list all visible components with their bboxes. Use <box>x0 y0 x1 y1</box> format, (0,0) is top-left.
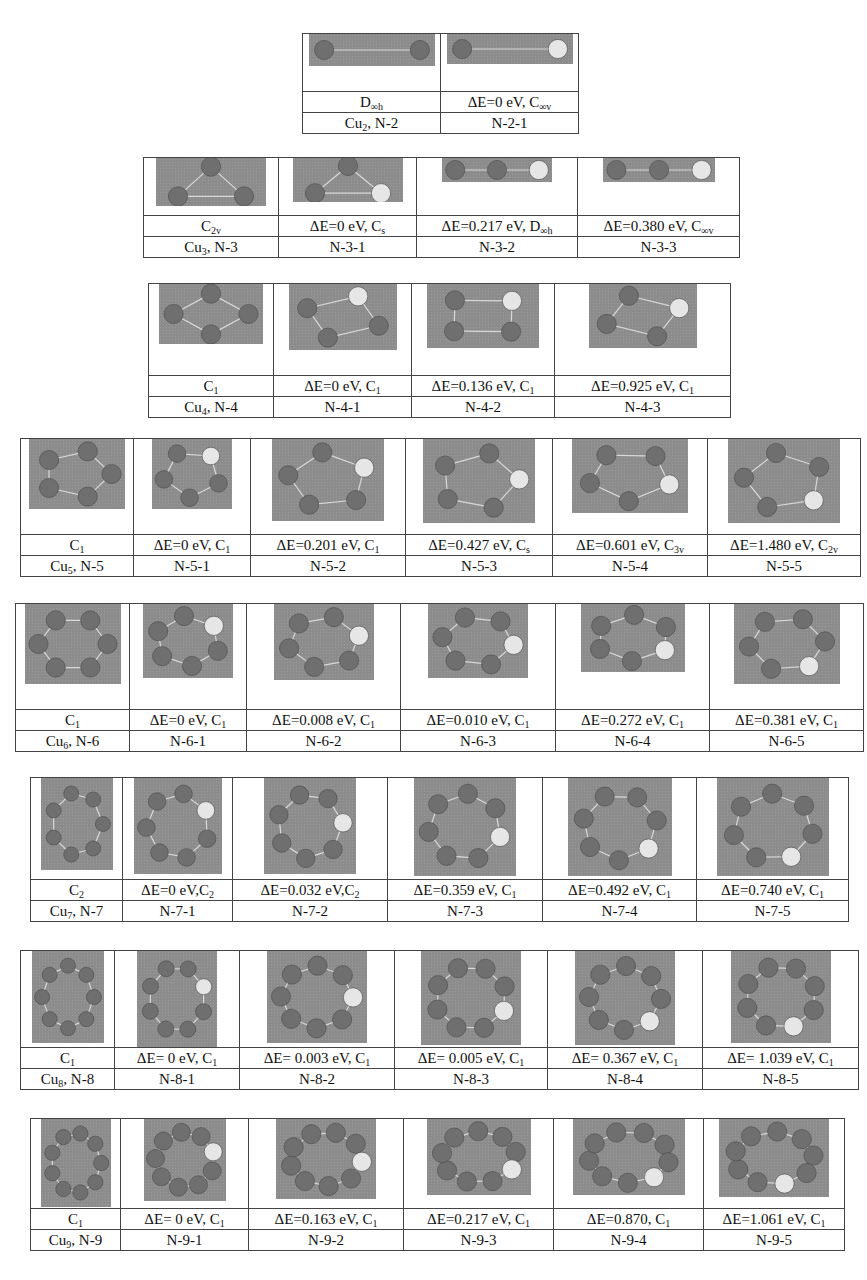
cu-atom-icon <box>42 967 57 982</box>
energy-text: ΔE=0.010 eV, C <box>427 712 525 728</box>
atom-cluster-icon <box>156 158 266 206</box>
cu-atom-icon <box>469 848 488 867</box>
cu-atom-icon <box>319 789 337 807</box>
structure-image-cell <box>703 951 859 1048</box>
cu-atom-icon <box>42 1012 57 1027</box>
point-group-symbol: C <box>68 1211 78 1227</box>
cu-atom-icon <box>758 958 777 977</box>
point-group-subscript: 1 <box>78 1218 83 1229</box>
isomer-id: N-2-1 <box>492 115 528 131</box>
energy-text: ΔE= 1.039 eV, C <box>727 1050 829 1066</box>
cu-atom-icon <box>579 987 598 1006</box>
energy-symmetry-cell: ΔE=0.427 eV, Cs <box>406 535 553 556</box>
cu-atom-icon <box>300 495 319 514</box>
energy-symmetry-cell: ΔE=1.061 eV, C1 <box>704 1209 845 1230</box>
cluster-formula: Cu <box>184 239 202 255</box>
atom-cluster-icon <box>293 158 403 202</box>
cu-atom-icon <box>304 657 323 676</box>
point-group-subscript: 1 <box>376 385 381 396</box>
cu-atom-icon <box>142 978 158 994</box>
cluster-structure-image <box>144 1119 226 1201</box>
cu-atom-icon <box>154 1132 172 1150</box>
isomer-label-cell: N-3-2 <box>417 237 578 258</box>
cu-atom-icon <box>574 809 593 828</box>
au-atom-icon <box>799 657 818 676</box>
cu-atom-icon <box>172 1123 190 1141</box>
cu-atom-icon <box>428 976 447 995</box>
cluster-name-cell: Cu4, N-4 <box>149 397 274 418</box>
point-group-subscript: 1 <box>212 1057 217 1068</box>
energy-text: ΔE=0 eV, C <box>150 712 222 728</box>
point-group-subscript: 3v <box>674 544 684 555</box>
cluster-formula: Cu <box>50 558 68 574</box>
cu-atom-icon <box>797 1163 816 1182</box>
cu-atom-icon <box>158 1021 174 1037</box>
cluster-structure-image <box>423 439 535 523</box>
energy-symmetry-cell: ΔE=0.601 eV, C3v <box>553 535 708 556</box>
cu-atom-icon <box>815 632 834 651</box>
cu-atom-icon <box>297 299 316 318</box>
isomer-id: N-6-4 <box>615 733 651 749</box>
cu-atom-icon <box>78 487 97 506</box>
atom-cluster-icon <box>144 1119 226 1201</box>
cu-atom-icon <box>726 1142 745 1161</box>
cu-atom-icon <box>741 1127 760 1146</box>
energy-text: ΔE=0 eV, C <box>154 537 226 553</box>
cu-atom-icon <box>734 468 753 487</box>
cluster-name-cell: Cu2, N-2 <box>303 113 441 134</box>
au-atom-icon <box>490 827 509 846</box>
isomer-label-cell: N-3-3 <box>578 237 740 258</box>
isomer-id: N-5-1 <box>174 558 210 574</box>
atom-cluster-icon <box>717 778 829 876</box>
point-group-subscript: ∞v <box>701 225 713 236</box>
isomer-label-cell: N-5-4 <box>553 556 708 577</box>
cu-atom-icon <box>419 822 438 841</box>
structure-image-cell <box>710 604 864 710</box>
energy-text: ΔE=0 eV, C <box>310 218 382 234</box>
cu-atom-icon <box>152 1168 170 1186</box>
energy-text: ΔE=0.740 eV, C <box>721 882 819 898</box>
cu-atom-icon <box>324 840 342 858</box>
structure-image-cell <box>144 158 279 216</box>
au-atom-icon <box>691 160 710 179</box>
energy-text: ΔE=0 eV, C <box>304 378 376 394</box>
cluster-structure-image <box>134 778 222 874</box>
cu-atom-icon <box>302 1125 321 1144</box>
cluster-table-cu4: C1ΔE=0 eV, C1ΔE=0.136 eV, C1ΔE=0.925 eV,… <box>148 283 731 418</box>
point-group-subscript: 1 <box>370 719 375 730</box>
atom-cluster-icon <box>575 951 675 1045</box>
atom-cluster-icon <box>427 1119 531 1195</box>
cu-atom-icon <box>447 1018 466 1037</box>
point-group-subscript: 1 <box>75 719 80 730</box>
isomer-label-cell: N-5-5 <box>708 556 861 577</box>
point-group-subscript: s <box>526 544 530 555</box>
point-group-subscript: ∞h <box>540 225 552 236</box>
cu-atom-icon <box>619 286 638 305</box>
cu-atom-icon <box>591 616 610 635</box>
cu-atom-icon <box>804 1000 823 1019</box>
cu-atom-icon <box>748 1173 767 1192</box>
cu-atom-icon <box>39 450 58 469</box>
atom-cluster-icon <box>427 284 539 348</box>
atom-cluster-icon <box>274 604 374 680</box>
cluster-table-cu8: C1ΔE= 0 eV, C1ΔE= 0.003 eV, C1ΔE= 0.005 … <box>20 950 859 1090</box>
structure-image-cell <box>240 951 395 1048</box>
isomer-label-cell: N-7-3 <box>388 901 543 922</box>
point-group-subscript: 1 <box>689 385 694 396</box>
cu-atom-icon <box>468 1122 487 1141</box>
structure-image-cell <box>21 951 115 1048</box>
isomer-label-cell: N-5-3 <box>406 556 553 577</box>
cu-atom-icon <box>762 784 781 803</box>
cu-atom-icon <box>592 1167 611 1186</box>
energy-symmetry-cell: ΔE=0 eV, Cs <box>279 216 417 237</box>
point-group-subscript: 1 <box>365 1057 370 1068</box>
structure-image-cell <box>134 439 251 535</box>
atom-cluster-icon <box>731 951 831 1043</box>
cluster-name-cell: Cu6, N-6 <box>16 731 130 752</box>
cu-atom-icon <box>369 316 388 335</box>
cu-atom-icon <box>314 40 333 59</box>
isomer-label-cell: N-7-1 <box>123 901 233 922</box>
cu-atom-icon <box>148 793 166 811</box>
cu-atom-icon <box>158 961 174 977</box>
cu-atom-icon <box>273 834 291 852</box>
